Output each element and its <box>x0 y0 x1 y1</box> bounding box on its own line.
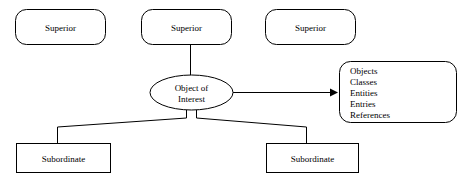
superior-box-2[interactable]: Superior <box>142 10 232 45</box>
list-item: References <box>350 110 390 120</box>
object-of-interest-shape <box>150 75 233 110</box>
diagram-root: Superior Superior Superior Object of Int… <box>0 0 464 188</box>
connector-object-to-subordinate-left <box>58 110 187 143</box>
list-item: Classes <box>350 77 377 87</box>
superior-box-3-label: Superior <box>295 23 326 33</box>
connector-object-to-subordinate-right <box>197 110 307 143</box>
superior-box-3[interactable]: Superior <box>266 10 356 45</box>
object-of-interest-label-line1: Object of <box>175 83 209 93</box>
list-item: Objects <box>350 66 378 76</box>
synonym-list-box[interactable]: Objects Classes Entities Entries Referen… <box>340 62 457 123</box>
superior-box-1[interactable]: Superior <box>16 10 106 45</box>
superior-box-1-label: Superior <box>45 23 76 33</box>
subordinate-box-left-label: Subordinate <box>42 154 86 164</box>
subordinate-box-left[interactable]: Subordinate <box>17 144 111 173</box>
list-item: Entries <box>350 99 376 109</box>
subordinate-box-right-label: Subordinate <box>291 154 335 164</box>
superior-box-2-label: Superior <box>171 23 202 33</box>
object-of-interest-node[interactable]: Object of Interest <box>150 75 233 110</box>
object-of-interest-label-line2: Interest <box>178 94 205 104</box>
arrow-head-icon <box>330 89 338 97</box>
subordinate-box-right[interactable]: Subordinate <box>267 144 359 173</box>
list-item: Entities <box>350 88 378 98</box>
diagram-canvas: Superior Superior Superior Object of Int… <box>0 0 464 188</box>
